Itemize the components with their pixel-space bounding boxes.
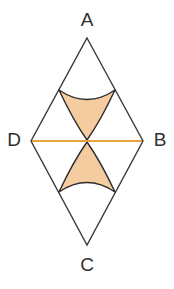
vertex-label-c: C <box>80 254 94 275</box>
geometry-figure: A B C D <box>0 0 174 289</box>
figure-canvas: A B C D <box>0 0 174 289</box>
vertex-label-a: A <box>81 9 94 30</box>
vertex-label-b: B <box>154 129 167 150</box>
vertex-label-d: D <box>7 129 21 150</box>
